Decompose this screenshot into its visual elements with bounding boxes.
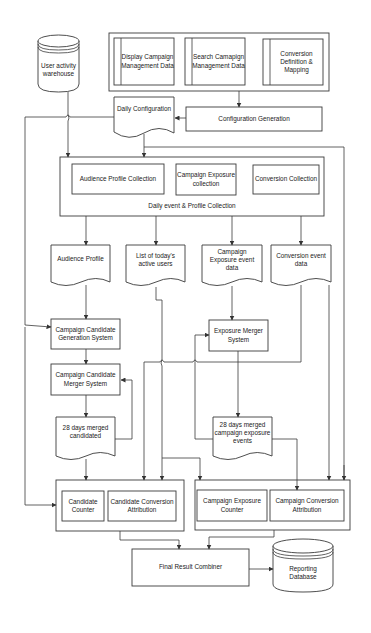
user-activity-warehouse-label: User activity warehouse xyxy=(38,55,79,85)
campaign-exposure-counter-label: Campaign Exposure Counter xyxy=(197,490,267,521)
diagram-shapes xyxy=(0,0,371,633)
reporting-database-label: Reporting Database xyxy=(278,560,328,586)
daily-configuration-label: Daily Configuration xyxy=(114,99,174,119)
campaign-conversion-attribution-label: Campaign Conversion Attribution xyxy=(270,490,344,521)
audience-profile-collection-label: Audience Profile Collection xyxy=(72,164,164,194)
merged-candidates-label: 28 days merged candidated xyxy=(58,419,113,445)
display-campaign-data-label: Display Campaign Management Data xyxy=(121,38,174,85)
search-campaign-data-label: Search Camapign Management Data xyxy=(192,38,245,85)
candidate-generation-label: Campaign Candidate Generation System xyxy=(51,319,120,349)
candidate-counter-label: Candidate Counter xyxy=(62,491,104,521)
daily-collection-title: Daily event & Profile Collection xyxy=(60,199,324,213)
exposure-merger-label: Exposure Merger System xyxy=(209,320,268,351)
data-flow-diagram: User activity warehouse Display Campaign… xyxy=(0,0,371,633)
final-result-combiner-label: Final Result Combiner xyxy=(132,549,249,586)
conversion-event-data-label: Conversion event data xyxy=(273,247,329,273)
active-users-label: List of today's active users xyxy=(128,247,183,273)
campaign-exposure-collection-label: Campaign Exposure collection xyxy=(176,164,236,195)
audience-profile-label: Audience Profile xyxy=(51,247,110,271)
candidate-conversion-attribution-label: Candidate Conversion Attribution xyxy=(108,491,176,521)
configuration-generation-label: Configuration Generation xyxy=(186,107,322,131)
conversion-definition-label: Conversion Definition & Mapping xyxy=(270,39,323,85)
campaign-exposure-event-data-label: Campaign Exposure event data xyxy=(204,246,260,274)
candidate-merger-label: Campaign Candidate Merger System xyxy=(51,364,120,395)
conversion-collection-label: Conversion Collection xyxy=(253,165,319,194)
merged-exposures-label: 28 days merged campaign exposure events xyxy=(214,419,271,447)
